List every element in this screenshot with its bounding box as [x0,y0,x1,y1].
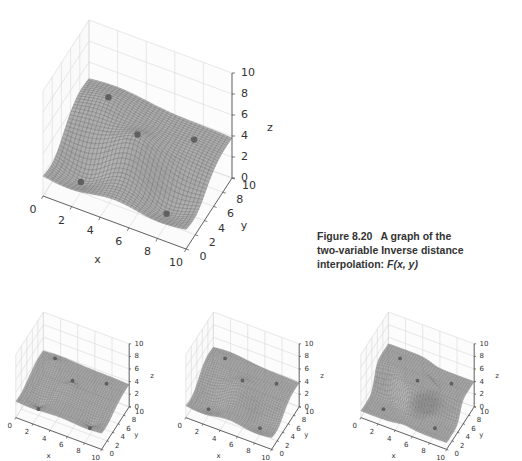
z-tick-label: 4 [241,129,248,142]
y-tick-label: 0 [110,450,114,458]
sample-point [450,382,454,386]
main-surface-plot: 024681002468100246810xyz [0,0,300,270]
sample-point [37,407,41,411]
z-tick-label: 4 [480,378,485,386]
x-tick-label: 2 [25,428,29,436]
x-tick-label: 10 [436,454,445,461]
z-tick-label: 2 [305,390,309,398]
y-tick-label: 6 [296,425,301,433]
z-axis-label: z [320,372,324,380]
x-tick-label: 4 [387,435,392,443]
x-tick-label: 8 [76,447,80,455]
y-tick-label: 6 [126,425,131,433]
x-tick-label: 10 [169,256,183,269]
z-tick-label: 8 [480,352,484,360]
sample-point [105,382,109,386]
x-tick-label: 6 [115,235,122,248]
sample-point [105,94,111,100]
y-axis-label: y [479,431,483,439]
sample-point [191,136,197,142]
y-tick-label: 2 [209,236,216,249]
small-surface-plot-high-power: 024681002468100246810xyz [335,300,515,461]
x-axis-label: x [46,452,50,460]
sample-point [71,379,75,383]
sample-point [416,379,420,383]
z-tick-label: 6 [241,108,248,121]
y-tick-label: 6 [227,207,234,220]
sample-point [88,426,92,430]
x-tick-label: 8 [144,245,151,258]
sample-point [53,356,57,360]
x-tick-label: 8 [421,447,425,455]
z-tick-label: 6 [480,365,485,373]
y-tick-label: 8 [236,193,243,206]
x-axis-label: x [94,253,101,266]
y-tick-label: 4 [291,433,296,441]
x-tick-label: 10 [91,454,100,461]
z-axis-label: z [495,372,499,380]
sample-point [78,179,84,185]
caption-line3: interpolation: [317,258,387,270]
z-tick-label: 2 [480,390,484,398]
sample-point [134,131,140,137]
y-tick-label: 8 [477,416,481,424]
z-tick-label: 2 [241,150,248,163]
caption-line2: two-variable Inverse distance [317,243,517,257]
x-tick-label: 0 [353,422,357,430]
x-tick-label: 0 [178,422,182,430]
y-axis-label: y [241,219,248,232]
z-tick-label: 0 [480,403,484,411]
z-tick-label: 0 [241,171,248,184]
z-tick-label: 8 [135,352,139,360]
y-tick-label: 2 [285,442,289,450]
x-tick-label: 2 [195,428,199,436]
x-tick-label: 4 [87,224,94,237]
x-tick-label: 6 [59,441,64,449]
y-tick-label: 0 [200,250,207,263]
z-tick-label: 8 [305,352,309,360]
z-axis-label: z [267,121,273,134]
z-tick-label: 4 [135,378,140,386]
z-tick-label: 4 [305,378,310,386]
y-tick-label: 4 [121,433,126,441]
z-tick-label: 10 [135,340,144,348]
x-tick-label: 4 [42,435,47,443]
x-axis-label: x [216,452,220,460]
x-tick-label: 0 [8,422,12,430]
x-tick-label: 0 [30,203,37,216]
y-tick-label: 4 [218,222,225,235]
sample-point [223,356,227,360]
z-tick-label: 0 [305,403,309,411]
caption-line1: A graph of the [380,230,451,242]
x-tick-label: 2 [58,214,65,227]
x-tick-label: 8 [246,447,250,455]
x-axis-label: x [391,452,395,460]
z-axis-label: z [150,372,154,380]
z-tick-label: 0 [135,403,139,411]
z-tick-label: 6 [135,365,140,373]
z-tick-label: 8 [241,87,248,100]
z-tick-label: 10 [241,66,255,79]
figure-label: Figure 8.20 [317,230,372,242]
y-tick-label: 4 [466,433,471,441]
x-tick-label: 4 [212,435,217,443]
y-tick-label: 8 [302,416,306,424]
y-tick-label: 2 [115,442,119,450]
figure-caption: Figure 8.20A graph of the two-variable I… [317,229,517,271]
z-tick-label: 6 [305,365,310,373]
sample-point [382,407,386,411]
y-tick-label: 6 [471,425,476,433]
y-tick-label: 0 [455,450,459,458]
y-axis-label: y [134,431,138,439]
z-tick-label: 10 [480,340,489,348]
x-tick-label: 10 [261,454,270,461]
sample-point [398,356,402,360]
sample-point [275,382,279,386]
sample-point [207,407,211,411]
x-tick-label: 6 [229,441,234,449]
sample-point [258,426,262,430]
x-tick-label: 6 [404,441,409,449]
x-tick-label: 2 [370,428,374,436]
sample-point [433,426,437,430]
small-surface-plot-low-power: 024681002468100246810xyz [0,300,170,461]
